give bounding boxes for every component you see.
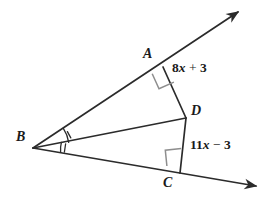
vertex-label-A: A bbox=[143, 47, 152, 61]
geometry-figure: B A D C 8x + 3 11x − 3 bbox=[0, 0, 275, 202]
right-angle-at-A-icon bbox=[152, 74, 174, 89]
segment-DC bbox=[180, 118, 186, 173]
measure-AD-operator: + bbox=[189, 60, 197, 75]
measure-AD-variable: x bbox=[179, 60, 186, 75]
angle-arc-ABD bbox=[63, 128, 68, 142]
angle-tick-DBC bbox=[64, 144, 65, 152]
measure-label-DC: 11x − 3 bbox=[190, 138, 231, 152]
vertex-label-B: B bbox=[16, 130, 25, 144]
measure-DC-coefficient: 11 bbox=[190, 137, 203, 152]
measure-AD-constant: 3 bbox=[200, 60, 207, 75]
geometry-canvas bbox=[0, 0, 275, 202]
measure-DC-operator: − bbox=[213, 137, 221, 152]
vertex-label-D: D bbox=[191, 104, 201, 118]
measure-DC-variable: x bbox=[203, 137, 210, 152]
measure-label-AD: 8x + 3 bbox=[172, 61, 207, 75]
right-angle-at-C-icon bbox=[165, 149, 181, 167]
angle-arc-DBC bbox=[60, 142, 61, 152]
ray-BC bbox=[33, 148, 256, 186]
measure-AD-coefficient: 8 bbox=[172, 60, 179, 75]
vertex-label-C: C bbox=[163, 176, 172, 190]
measure-DC-constant: 3 bbox=[224, 137, 231, 152]
